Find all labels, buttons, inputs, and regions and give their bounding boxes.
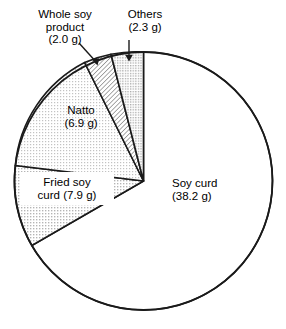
slice-label-natto-line1: Natto: [51, 104, 111, 117]
slice-label-others: Others (2.3 g): [114, 8, 176, 33]
slice-label-natto-value: (6.9 g): [51, 117, 111, 130]
slice-label-others-value: (2.3 g): [114, 21, 176, 34]
slice-label-natto: Natto (6.9 g): [51, 104, 111, 129]
slice-label-whole-soy-product-value: (2.0 g): [19, 33, 111, 46]
slice-label-fried-soy-curd-line2: curd (7.9 g): [23, 189, 111, 202]
slice-label-soy-curd-line1: Soy curd: [172, 177, 254, 190]
slice-label-whole-soy-product: Whole soy product (2.0 g): [19, 8, 111, 46]
slice-label-whole-soy-product-line1: Whole soy: [19, 8, 111, 21]
slice-label-fried-soy-curd: Fried soy curd (7.9 g): [20, 172, 114, 205]
slice-label-soy-curd: Soy curd (38.2 g): [172, 177, 254, 202]
pie-chart-figure: [0, 0, 286, 329]
slice-label-fried-soy-curd-line1: Fried soy: [23, 176, 111, 189]
slice-label-soy-curd-value: (38.2 g): [172, 190, 254, 203]
slice-label-others-line1: Others: [114, 8, 176, 21]
slice-label-whole-soy-product-line2: product: [19, 21, 111, 34]
